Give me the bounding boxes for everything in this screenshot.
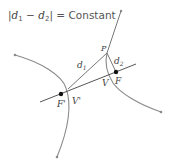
label-d1: d1 <box>77 60 87 71</box>
label-P: P <box>100 44 107 53</box>
focus-F-prime-point <box>59 92 63 96</box>
hyperbola-diagram: |d1 − d2| = Constant P d1 d2 F F' V V' <box>0 0 171 166</box>
label-F: F <box>114 76 122 86</box>
equation-label: |d1 − d2| = Constant <box>8 9 116 23</box>
label-V-prime: V' <box>72 96 81 106</box>
label-V: V <box>102 78 110 88</box>
label-F-prime: F' <box>56 99 66 109</box>
focus-F-point <box>114 70 118 74</box>
label-d2: d2 <box>114 56 124 67</box>
transverse-axis <box>40 64 136 102</box>
